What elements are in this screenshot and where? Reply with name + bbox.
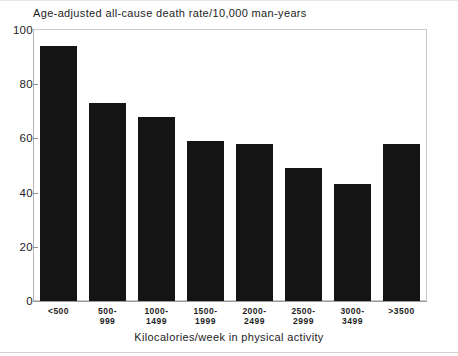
x-tick-label: >3500 bbox=[377, 306, 426, 316]
y-tick-label: 40 bbox=[5, 187, 33, 199]
y-axis-ticks: 020406080100 bbox=[0, 0, 33, 356]
bar bbox=[138, 117, 175, 301]
y-tick-mark bbox=[33, 193, 38, 194]
y-tick-label: 0 bbox=[5, 295, 33, 307]
y-tick-label: 20 bbox=[5, 241, 33, 253]
bar bbox=[334, 184, 371, 301]
chart-figure: Age-adjusted all-cause death rate/10,000… bbox=[0, 0, 458, 356]
x-tick-label: 2000- 2499 bbox=[230, 306, 279, 326]
y-tick-mark bbox=[33, 247, 38, 248]
x-tick-label: 3000- 3499 bbox=[328, 306, 377, 326]
y-tick-mark bbox=[33, 84, 38, 85]
bar bbox=[383, 144, 420, 301]
bar bbox=[89, 103, 126, 301]
bottom-rule bbox=[0, 352, 458, 353]
x-axis-line bbox=[33, 301, 427, 302]
x-tick-label: 500- 999 bbox=[83, 306, 132, 326]
y-tick-label: 80 bbox=[5, 78, 33, 90]
chart-title: Age-adjusted all-cause death rate/10,000… bbox=[33, 7, 307, 19]
x-tick-label: <500 bbox=[34, 306, 83, 316]
bar bbox=[236, 144, 273, 301]
y-tick-mark bbox=[33, 138, 38, 139]
y-tick-label: 60 bbox=[5, 132, 33, 144]
x-tick-label: 2500- 2999 bbox=[279, 306, 328, 326]
x-tick-label: 1000- 1499 bbox=[132, 306, 181, 326]
top-rule bbox=[0, 0, 458, 1]
bar-series bbox=[34, 30, 426, 301]
bar bbox=[187, 141, 224, 301]
y-tick-label: 100 bbox=[5, 24, 33, 36]
x-axis-title: Kilocalories/week in physical activity bbox=[0, 331, 458, 343]
bar bbox=[285, 168, 322, 301]
x-tick-label: 1500- 1999 bbox=[181, 306, 230, 326]
bar bbox=[40, 46, 77, 301]
